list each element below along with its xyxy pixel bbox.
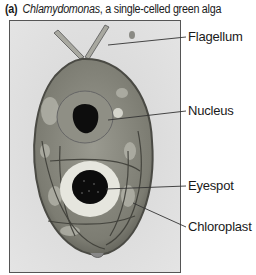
cell-body xyxy=(34,59,152,255)
eyespot xyxy=(72,170,108,204)
caption-text: , a single-celled green alga xyxy=(100,2,221,16)
label-flagellum: Flagellum xyxy=(188,29,243,44)
cell-illustration xyxy=(10,21,180,272)
micrograph xyxy=(9,20,181,273)
label-nucleus: Nucleus xyxy=(188,103,234,118)
panel-tag: (a) xyxy=(5,2,17,16)
label-eyespot: Eyespot xyxy=(188,178,234,193)
caption-genus: Chlamydomonas xyxy=(23,2,100,16)
figure-caption: (a)Chlamydomonas, a single-celled green … xyxy=(5,2,221,16)
label-chloroplast: Chloroplast xyxy=(188,219,252,234)
